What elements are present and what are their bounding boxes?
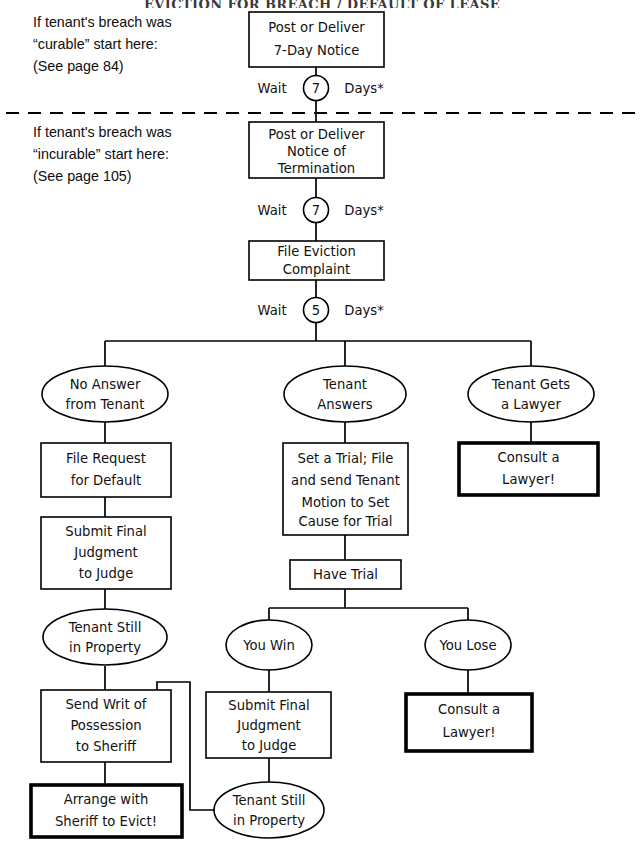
wait-step-7-notice-prefix: Wait <box>257 81 286 96</box>
node-tenant-still-in-property-center-line-1: Tenant Still <box>232 793 306 808</box>
node-set-a-trial-line-1: Set a Trial; File <box>298 451 394 466</box>
node-consult-a-lawyer-right-line-1: Consult a <box>498 450 560 465</box>
incurable-note-line-2: “incurable” start here: <box>33 146 169 162</box>
node-consult-a-lawyer-lose-line-1: Consult a <box>438 702 500 717</box>
wait-step-7-termination-days: 7 <box>312 203 320 218</box>
node-set-a-trial-line-2: and send Tenant <box>291 473 400 488</box>
node-you-win[interactable]: You Win <box>226 620 312 670</box>
node-have-trial-line-1: Have Trial <box>313 567 378 582</box>
flowchart-canvas: If tenant's breach was “curable” start h… <box>0 0 644 843</box>
node-have-trial[interactable]: Have Trial <box>290 560 401 589</box>
node-arrange-with-sheriff-line-1: Arrange with <box>64 792 149 807</box>
wait-step-5-complaint-prefix: Wait <box>257 303 286 318</box>
node-consult-a-lawyer-lose-line-2: Lawyer! <box>443 725 496 740</box>
curable-note-line-1: If tenant's breach was <box>33 14 172 30</box>
wait-step-5-complaint-suffix: Days* <box>344 303 384 318</box>
node-tenant-answers-line-1: Tenant <box>322 377 367 392</box>
node-tenant-gets-a-lawyer[interactable]: Tenant Gets a Lawyer <box>468 366 594 422</box>
node-notice-of-termination[interactable]: Post or Deliver Notice of Termination <box>249 122 384 178</box>
curable-note-line-3: (See page 84) <box>33 58 124 74</box>
node-tenant-still-in-property-left[interactable]: Tenant Still in Property <box>43 609 167 665</box>
incurable-note-line-3: (See page 105) <box>33 168 132 184</box>
node-send-writ-of-possession-line-3: to Sheriff <box>76 739 137 754</box>
node-no-answer-from-tenant-shape[interactable] <box>42 366 168 422</box>
wait-step-7-notice-suffix: Days* <box>344 81 384 96</box>
node-no-answer-from-tenant-line-2: from Tenant <box>66 397 145 412</box>
node-file-request-for-default-line-2: for Default <box>71 473 142 488</box>
node-set-a-trial[interactable]: Set a Trial; File and send Tenant Motion… <box>283 443 408 535</box>
node-tenant-answers[interactable]: Tenant Answers <box>284 366 406 422</box>
wait-step-7-notice-days: 7 <box>312 81 320 96</box>
curable-note: If tenant's breach was “curable” start h… <box>33 14 172 74</box>
node-no-answer-from-tenant[interactable]: No Answer from Tenant <box>42 366 168 422</box>
node-you-lose-line-1: You Lose <box>438 638 496 653</box>
incurable-note-line-1: If tenant's breach was <box>33 124 172 140</box>
wait-step-7-termination-prefix: Wait <box>257 203 286 218</box>
node-tenant-gets-a-lawyer-line-2: a Lawyer <box>501 397 561 412</box>
node-tenant-still-in-property-left-line-1: Tenant Still <box>68 620 142 635</box>
wait-step-7-termination: Wait 7 Days* <box>257 198 384 223</box>
node-consult-a-lawyer-right[interactable]: Consult a Lawyer! <box>459 443 598 495</box>
node-submit-final-judgment-left-line-2: Judgment <box>73 545 137 560</box>
node-no-answer-from-tenant-line-1: No Answer <box>70 377 141 392</box>
node-file-eviction-complaint-line-2: Complaint <box>283 262 350 277</box>
node-tenant-still-in-property-center[interactable]: Tenant Still in Property <box>214 782 324 838</box>
node-tenant-answers-line-2: Answers <box>317 397 373 412</box>
node-post-7-day-notice-line-1: Post or Deliver <box>268 20 365 35</box>
node-set-a-trial-line-4: Cause for Trial <box>298 514 392 529</box>
node-tenant-gets-a-lawyer-line-1: Tenant Gets <box>491 377 571 392</box>
wait-step-5-complaint: Wait 5 Days* <box>257 298 384 323</box>
node-submit-final-judgment-center-line-1: Submit Final <box>228 698 309 713</box>
node-consult-a-lawyer-lose[interactable]: Consult a Lawyer! <box>406 694 532 751</box>
node-submit-final-judgment-center-line-3: to Judge <box>242 738 297 753</box>
node-tenant-still-in-property-left-line-2: in Property <box>69 640 141 655</box>
node-arrange-with-sheriff[interactable]: Arrange with Sheriff to Evict! <box>31 785 182 837</box>
node-submit-final-judgment-center-line-2: Judgment <box>236 718 300 733</box>
node-tenant-gets-a-lawyer-shape[interactable] <box>468 366 594 422</box>
wait-step-7-termination-suffix: Days* <box>344 203 384 218</box>
wait-step-7-notice: Wait 7 Days* <box>257 76 384 101</box>
node-notice-of-termination-line-3: Termination <box>277 161 355 176</box>
node-send-writ-of-possession-line-1: Send Writ of <box>65 697 146 712</box>
node-submit-final-judgment-left[interactable]: Submit Final Judgment to Judge <box>41 517 171 589</box>
node-submit-final-judgment-left-line-3: to Judge <box>79 566 134 581</box>
node-arrange-with-sheriff-line-2: Sheriff to Evict! <box>55 814 157 829</box>
node-post-7-day-notice-line-2: 7-Day Notice <box>274 43 360 58</box>
node-consult-a-lawyer-right-line-2: Lawyer! <box>502 472 555 487</box>
node-set-a-trial-line-3: Motion to Set <box>302 495 390 510</box>
node-tenant-still-in-property-center-shape[interactable] <box>214 782 324 838</box>
node-submit-final-judgment-left-line-1: Submit Final <box>65 524 146 539</box>
incurable-note: If tenant's breach was “incurable” start… <box>33 124 172 184</box>
node-tenant-answers-shape[interactable] <box>284 366 406 422</box>
curable-note-line-2: “curable” start here: <box>33 36 158 52</box>
node-send-writ-of-possession-line-2: Possession <box>70 718 141 733</box>
node-post-7-day-notice[interactable]: Post or Deliver 7-Day Notice <box>249 12 384 67</box>
node-file-eviction-complaint[interactable]: File Eviction Complaint <box>249 241 384 280</box>
node-file-request-for-default-line-1: File Request <box>66 451 146 466</box>
node-file-eviction-complaint-line-1: File Eviction <box>277 244 356 259</box>
node-notice-of-termination-line-1: Post or Deliver <box>268 127 365 142</box>
node-file-request-for-default[interactable]: File Request for Default <box>41 443 171 497</box>
node-you-win-line-1: You Win <box>242 638 295 653</box>
node-send-writ-of-possession[interactable]: Send Writ of Possession to Sheriff <box>41 690 171 762</box>
node-notice-of-termination-line-2: Notice of <box>287 144 346 159</box>
flowchart-page: EVICTION FOR BREACH / DEFAULT OF LEASE <box>0 0 644 843</box>
node-you-lose[interactable]: You Lose <box>425 620 511 670</box>
node-submit-final-judgment-center[interactable]: Submit Final Judgment to Judge <box>206 692 331 758</box>
node-tenant-still-in-property-left-shape[interactable] <box>43 609 167 665</box>
wait-step-5-complaint-days: 5 <box>312 303 320 318</box>
node-tenant-still-in-property-center-line-2: in Property <box>233 813 305 828</box>
